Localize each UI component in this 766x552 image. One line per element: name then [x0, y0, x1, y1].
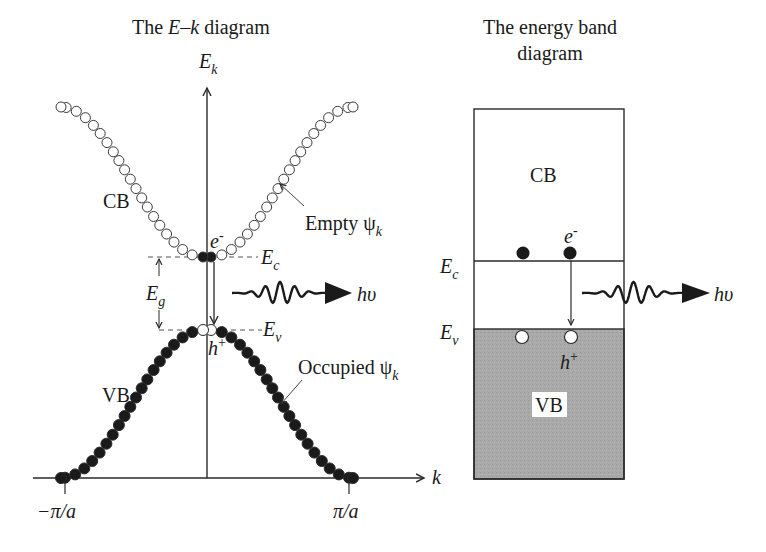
title-text: The	[132, 16, 168, 38]
ev-subscript: v	[275, 330, 281, 345]
empty-state-dot	[235, 237, 245, 247]
diagram-canvas	[0, 0, 766, 552]
empty-state-dot	[226, 245, 236, 255]
electron-label: e-	[210, 231, 224, 251]
hole-dot	[516, 331, 529, 344]
title-line-1: The energy band	[467, 17, 633, 37]
empty-state-dot	[178, 245, 188, 255]
empty-state-dot	[249, 220, 259, 230]
empty-state-dot	[316, 120, 326, 130]
empty-state-dot	[333, 106, 343, 116]
label-subscript: k	[376, 224, 382, 239]
tick-label-neg-pi: −π/a	[37, 501, 76, 521]
photon-wave-icon	[582, 282, 685, 303]
energy-axis-label: Ek	[199, 51, 217, 71]
empty-state-dot	[302, 138, 312, 148]
electron-charge: -	[219, 228, 224, 243]
empty-state-dot	[102, 138, 112, 148]
empty-pointer	[280, 184, 304, 206]
empty-state-dot	[296, 147, 306, 157]
eg-symbol: E	[146, 282, 158, 304]
empty-state-dot	[255, 212, 265, 222]
ek-diagram-title: The E–k diagram	[132, 17, 270, 37]
axis-subscript: k	[211, 62, 217, 77]
occupied-state-dot	[333, 469, 344, 480]
occupied-pointer	[281, 380, 302, 404]
empty-state-dot	[114, 156, 124, 166]
ev-label: Ev	[263, 319, 281, 339]
band-electron-label: e-	[564, 226, 578, 246]
empty-state-dot	[242, 229, 252, 239]
axis-symbol: E	[199, 50, 211, 72]
title-line-2: diagram	[467, 43, 633, 63]
empty-state-dot	[187, 250, 197, 260]
occupied-state-dot	[290, 420, 301, 431]
tick-label-pos-pi: π/a	[333, 501, 359, 521]
cb-label: CB	[103, 191, 130, 211]
label-text: Occupied ψ	[298, 356, 392, 378]
photon-arrowhead	[682, 283, 710, 303]
empty-state-dot	[262, 202, 272, 212]
occupied-state-dot	[56, 473, 67, 484]
occupied-state-dot	[255, 365, 266, 376]
empty-state-dot	[131, 184, 141, 194]
hole-label: h+	[208, 338, 226, 358]
hole-symbol: h	[560, 351, 570, 373]
band-diagram-title: The energy band diagram	[467, 17, 633, 63]
ec-subscript: c	[452, 267, 458, 282]
eg-subscript: g	[158, 294, 165, 309]
band-cb-label: CB	[530, 165, 557, 185]
label-text: Empty ψ	[305, 212, 376, 234]
empty-states-label: Empty ψk	[305, 213, 382, 233]
empty-state-dot	[120, 165, 130, 175]
occupied-state-dot	[70, 469, 81, 480]
photon-arrowhead	[325, 282, 352, 304]
band-ev-label: Ev	[440, 322, 458, 342]
photon-energy-label: hυ	[357, 284, 376, 304]
label-subscript: k	[392, 368, 398, 383]
vb-label: VB	[102, 385, 130, 405]
empty-state-dot	[88, 120, 98, 130]
electron-dot	[517, 247, 530, 260]
eg-label: Eg	[146, 283, 165, 303]
band-hole-label: h+	[560, 352, 578, 372]
ev-symbol: E	[263, 318, 275, 340]
ev-subscript: v	[452, 333, 458, 348]
empty-state-dot	[80, 113, 90, 123]
empty-state-dot	[162, 229, 172, 239]
occupied-state-dot	[113, 420, 124, 431]
title-text: diagram	[199, 16, 270, 38]
empty-state-dot	[348, 102, 358, 112]
empty-state-dot	[95, 129, 105, 139]
hole-dot	[565, 331, 578, 344]
occupied-state-dot	[348, 473, 359, 484]
band-ec-label: Ec	[440, 256, 458, 276]
electron-symbol: e	[210, 230, 219, 252]
ec-label: Ec	[261, 247, 279, 267]
electron-symbol: e	[564, 225, 573, 247]
photon-wave-icon	[232, 282, 328, 303]
band-diagram	[474, 109, 710, 479]
hole-symbol: h	[208, 337, 218, 359]
empty-state-dot	[169, 237, 179, 247]
empty-state-dot	[71, 106, 81, 116]
empty-state-dot	[284, 165, 294, 175]
empty-state-dot	[137, 193, 147, 203]
ec-symbol: E	[261, 246, 273, 268]
k-axis-label: k	[432, 467, 441, 487]
empty-state-dot	[149, 212, 159, 222]
electron-state-dot	[198, 252, 208, 262]
empty-state-dot	[267, 193, 277, 203]
occupied-states-label: Occupied ψk	[298, 357, 398, 377]
empty-state-dot	[324, 113, 334, 123]
title-italic-text: E–k	[168, 16, 199, 38]
ev-symbol: E	[440, 321, 452, 343]
empty-state-dot	[279, 174, 289, 184]
hole-charge: +	[218, 335, 226, 350]
band-vb-label: VB	[535, 395, 563, 415]
hole-state-dot	[198, 325, 209, 336]
empty-state-dot	[142, 202, 152, 212]
empty-state-dot	[125, 174, 135, 184]
hole-charge: +	[570, 349, 578, 364]
empty-state-dot	[290, 156, 300, 166]
